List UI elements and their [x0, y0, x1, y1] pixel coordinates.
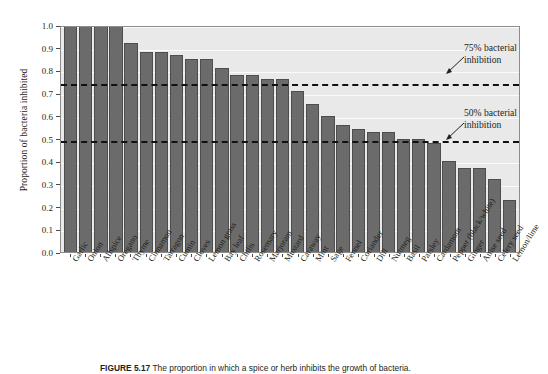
bar[interactable] [412, 139, 425, 253]
y-axis-tick: 0.2 [0, 202, 60, 214]
bar-slot [275, 27, 290, 252]
bar-slot [214, 27, 229, 252]
y-axis-tick-label: 0.0 [42, 247, 53, 259]
bar-slot [184, 27, 199, 252]
annotation-75-line1: 75% bacterial [464, 42, 517, 54]
bar-slot [230, 27, 245, 252]
bar-slot [63, 27, 78, 252]
bar[interactable] [79, 26, 92, 252]
bar-slot [78, 27, 93, 252]
bar-slot [411, 27, 426, 252]
annotation-50-arrow-icon [443, 122, 467, 142]
figure-container: Proportion of bacteria inhibited 1.00.90… [0, 0, 548, 374]
bar-slot [124, 27, 139, 252]
annotation-75-line2: inhibition [464, 54, 517, 66]
bar[interactable] [261, 79, 274, 252]
bar-slot [336, 27, 351, 252]
bar[interactable] [64, 26, 77, 252]
bar[interactable] [276, 79, 289, 252]
annotation-75-arrow-icon [443, 56, 467, 76]
figure-caption-label: FIGURE 5.17 [100, 363, 150, 373]
bar[interactable] [155, 52, 168, 252]
bar-slot [396, 27, 411, 252]
y-axis-ticks: 1.00.90.80.70.60.50.40.30.20.10.0 [0, 0, 60, 279]
y-axis-tick: 0.6 [0, 111, 60, 123]
y-axis-tick-label: 0.5 [42, 134, 53, 146]
bar[interactable] [291, 91, 304, 252]
bar[interactable] [94, 26, 107, 252]
bar[interactable] [246, 75, 259, 252]
y-axis-tick: 0.1 [0, 224, 60, 236]
bar-slot [139, 27, 154, 252]
y-axis-tick-label: 0.1 [42, 224, 53, 236]
y-axis-tick: 0.0 [0, 247, 60, 259]
bar[interactable] [109, 26, 122, 252]
bar-slot [154, 27, 169, 252]
y-axis-tick-label: 0.2 [42, 202, 53, 214]
bar-slot [305, 27, 320, 252]
y-axis-tick-label: 0.4 [42, 156, 53, 168]
figure-caption: FIGURE 5.17 The proportion in which a sp… [100, 363, 530, 374]
y-axis-tick: 0.5 [0, 134, 60, 146]
y-axis-tick-label: 0.7 [42, 88, 53, 100]
y-axis-tick: 1.0 [0, 20, 60, 32]
bar[interactable] [200, 59, 213, 252]
bar[interactable] [306, 104, 319, 252]
annotation-75-percent: 75% bacterial inhibition [464, 42, 517, 65]
bar-slot [93, 27, 108, 252]
y-axis-tick-label: 0.6 [42, 111, 53, 123]
y-axis-tick: 0.4 [0, 156, 60, 168]
y-axis-tick-label: 0.8 [42, 65, 53, 77]
bar-slot [351, 27, 366, 252]
annotation-50-percent: 50% bacterial inhibition [464, 107, 517, 130]
bar-slot [320, 27, 335, 252]
bar-slot [381, 27, 396, 252]
y-axis-tick: 0.8 [0, 65, 60, 77]
y-axis-tick-label: 0.3 [42, 179, 53, 191]
y-axis-tick: 0.9 [0, 43, 60, 55]
y-axis-tick-label: 0.9 [42, 43, 53, 55]
annotation-50-line1: 50% bacterial [464, 107, 517, 119]
bar[interactable] [124, 43, 137, 252]
bar[interactable] [140, 52, 153, 252]
bar[interactable] [321, 116, 334, 252]
bar-slot [426, 27, 441, 252]
bar[interactable] [427, 143, 440, 252]
y-axis-tick: 0.7 [0, 88, 60, 100]
bar-slot [199, 27, 214, 252]
bar-slot [108, 27, 123, 252]
y-axis-tick: 0.3 [0, 179, 60, 191]
bar-slot [290, 27, 305, 252]
bar-slot [245, 27, 260, 252]
y-axis-tick-label: 1.0 [42, 20, 53, 32]
reference-line-75 [61, 84, 519, 86]
bar[interactable] [336, 125, 349, 252]
annotation-50-line2: inhibition [464, 119, 517, 131]
bar-slot [260, 27, 275, 252]
bar-slot [169, 27, 184, 252]
bar[interactable] [185, 59, 198, 252]
bar[interactable] [352, 129, 365, 252]
bar-slot [366, 27, 381, 252]
x-axis-ticks: GarlicOnionAllspiceOreganoThymeCinnamonT… [60, 254, 520, 350]
figure-caption-text: The proportion in which a spice or herb … [152, 363, 410, 373]
